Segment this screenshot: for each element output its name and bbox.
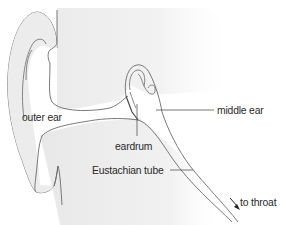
- eardrum-membrane: [126, 96, 138, 120]
- label-middle-ear: middle ear: [217, 104, 264, 116]
- label-outer-ear: outer ear: [22, 111, 62, 123]
- ear-diagram: outer ear middle ear eardrum Eustachian …: [0, 0, 285, 225]
- label-to-throat: to throat: [240, 196, 276, 208]
- label-eardrum: eardrum: [115, 140, 152, 152]
- label-eustachian-tube: Eustachian tube: [92, 164, 164, 176]
- ossicle-stapes: [130, 92, 136, 108]
